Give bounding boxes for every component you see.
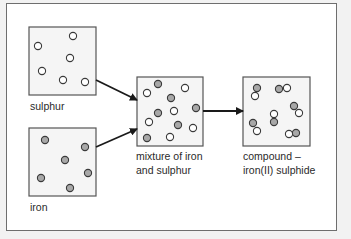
compound-label-line: iron(II) sulphide <box>243 163 315 177</box>
sulphur-particle <box>66 54 73 61</box>
sulphur-particle <box>295 109 302 116</box>
sulphur-particle <box>166 133 173 140</box>
mixture-label-line: and sulphur <box>136 163 203 177</box>
iron-particle <box>154 109 161 116</box>
iron-box <box>29 128 96 196</box>
iron-particle <box>66 184 73 191</box>
iron-particle <box>81 143 88 150</box>
sulphur-to-mixture-arrow <box>96 80 137 100</box>
iron-particle <box>41 136 48 143</box>
sulphur-particle <box>189 124 196 131</box>
iron-particle <box>275 85 282 92</box>
iron-particle <box>249 119 256 126</box>
iron-particle <box>270 118 277 125</box>
iron-particle <box>84 169 91 176</box>
iron-to-mixture-arrow <box>96 129 137 147</box>
sulphur-particle <box>81 78 88 85</box>
iron-particle <box>37 174 44 181</box>
compound-label-line: compound – <box>243 149 315 163</box>
iron-particle <box>290 102 297 109</box>
sulphur-particle <box>283 84 290 91</box>
iron-label: iron <box>30 200 48 214</box>
iron-particle <box>292 129 299 136</box>
iron-particle <box>253 84 260 91</box>
sulphur-particle <box>253 127 260 134</box>
iron-label-line: iron <box>30 200 48 214</box>
sulphur-particle <box>59 76 66 83</box>
sulphur-particle <box>170 107 177 114</box>
sulphur-particle <box>181 84 188 91</box>
sulphur-label: sulphur <box>30 99 64 113</box>
iron-particle <box>143 134 150 141</box>
iron-particle <box>61 156 68 163</box>
sulphur-particle <box>34 42 41 49</box>
compound-label: compound –iron(II) sulphide <box>243 149 315 177</box>
compound-box <box>243 77 310 146</box>
iron-particle <box>174 121 181 128</box>
mixture-label: mixture of ironand sulphur <box>136 149 203 177</box>
sulphur-label-line: sulphur <box>30 99 64 113</box>
diagram-canvas <box>0 0 351 239</box>
mixture-label-line: mixture of iron <box>136 149 203 163</box>
iron-particle <box>192 104 199 111</box>
sulphur-particle <box>38 67 45 74</box>
sulphur-particle <box>143 89 150 96</box>
sulphur-particle <box>270 110 277 117</box>
sulphur-particle <box>145 118 152 125</box>
mixture-box <box>137 77 203 146</box>
sulphur-box <box>29 27 96 95</box>
sulphur-particle <box>285 130 292 137</box>
iron-particle <box>154 80 161 87</box>
sulphur-particle <box>251 92 258 99</box>
iron-particle <box>167 94 174 101</box>
sulphur-particle <box>69 32 76 39</box>
